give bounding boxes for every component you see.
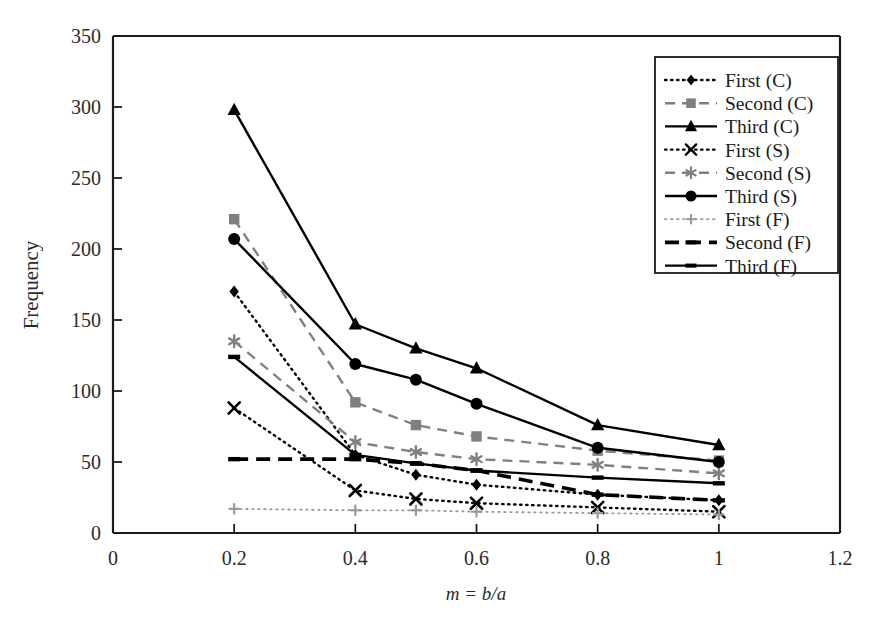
legend-item-label: Second (F)	[725, 232, 811, 254]
x-tick-label: 0	[108, 547, 118, 569]
x-tick-label: 1.2	[828, 547, 853, 569]
legend-item-label: Third (S)	[725, 186, 797, 208]
marker-circle	[592, 442, 604, 454]
y-tick-label: 50	[81, 451, 101, 473]
marker-square	[350, 397, 360, 407]
marker-dash	[592, 475, 604, 479]
x-tick-label: 0.4	[343, 547, 368, 569]
marker-square	[471, 431, 481, 441]
marker-dash	[471, 468, 483, 472]
marker-circle	[713, 456, 725, 468]
legend-item-label: First (F)	[725, 209, 789, 231]
marker-circle	[228, 233, 240, 245]
legend-item-label: First (C)	[725, 70, 792, 92]
marker-square	[411, 420, 421, 430]
marker-dash	[349, 457, 361, 461]
chart-page: 050100150200250300350 00.20.40.60.811.2 …	[0, 0, 893, 625]
marker-dash	[685, 240, 696, 244]
y-tick-label: 250	[71, 167, 101, 189]
y-axis-title: Frequency	[19, 240, 43, 329]
x-tick-label: 1	[714, 547, 724, 569]
marker-circle	[410, 374, 422, 386]
y-tick-label: 100	[71, 380, 101, 402]
marker-dash	[228, 457, 240, 461]
marker-circle	[685, 190, 696, 201]
y-tick-label: 350	[71, 25, 101, 47]
legend-item-label: Second (C)	[725, 93, 813, 115]
x-tick-label: 0.8	[585, 547, 610, 569]
marker-square	[229, 214, 239, 224]
y-tick-label: 200	[71, 238, 101, 260]
marker-dash	[349, 453, 361, 457]
legend-item-label: Third (F)	[725, 256, 797, 278]
marker-circle	[349, 358, 361, 370]
legend-item-label: Third (C)	[725, 116, 799, 138]
marker-dash	[228, 355, 240, 359]
marker-dash	[410, 461, 422, 465]
frequency-vs-aspect-ratio-line-chart: 050100150200250300350 00.20.40.60.811.2 …	[0, 0, 893, 625]
legend: First (C)Second (C)Third (C)First (S)Sec…	[655, 57, 838, 278]
x-tick-label: 0.6	[464, 547, 489, 569]
y-tick-label: 150	[71, 309, 101, 331]
marker-dash	[713, 498, 725, 502]
x-axis-title-text: m = b/a	[446, 583, 506, 604]
marker-dash	[685, 264, 696, 268]
marker-square	[686, 98, 696, 108]
marker-circle	[471, 398, 483, 410]
x-axis-title: m = b/a	[446, 583, 506, 604]
marker-dash	[713, 481, 725, 485]
y-tick-label: 300	[71, 96, 101, 118]
legend-item-label: First (S)	[725, 140, 789, 162]
legend-item-label: Second (S)	[725, 163, 811, 185]
x-tick-label: 0.2	[222, 547, 247, 569]
y-tick-label: 0	[91, 522, 101, 544]
marker-dash	[592, 492, 604, 496]
